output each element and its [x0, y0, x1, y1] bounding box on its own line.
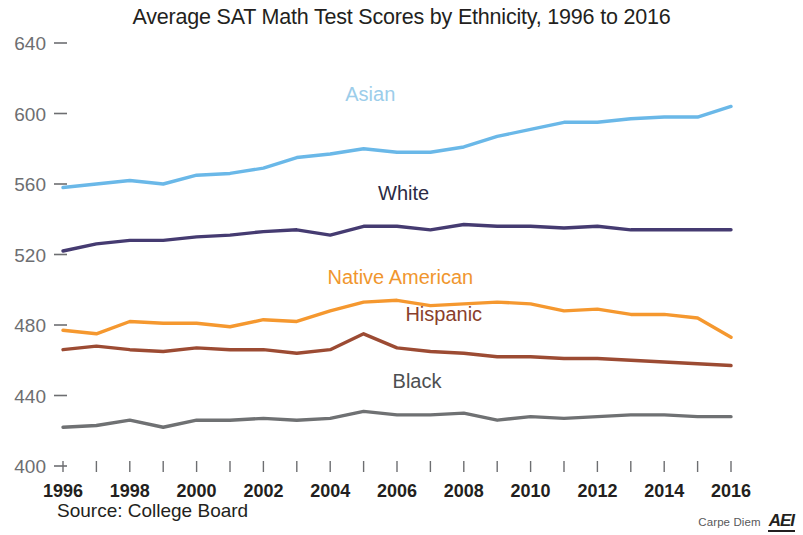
line-chart-plot: 400440480520560600640 199619982000200220… — [0, 0, 803, 535]
x-axis: 1996199820002002200420062008201020122014… — [43, 461, 751, 501]
series-label-asian: Asian — [345, 83, 395, 105]
series-line-black — [63, 411, 731, 427]
series-label-hispanic: Hispanic — [405, 303, 482, 325]
credit-block: Carpe Diem AEI — [698, 512, 795, 532]
series-line-white — [63, 225, 731, 251]
x-axis-tick-label: 2002 — [243, 481, 283, 501]
series-label-white: White — [378, 182, 429, 204]
x-axis-tick-label: 1998 — [110, 481, 150, 501]
series-label-native-american: Native American — [328, 266, 474, 288]
series-label-black: Black — [393, 370, 443, 392]
x-axis-tick-label: 2000 — [177, 481, 217, 501]
y-axis-tick-label: 560 — [14, 174, 46, 195]
y-axis-tick-label: 600 — [14, 104, 46, 125]
x-axis-tick-label: 2016 — [711, 481, 751, 501]
y-axis-tick-label: 440 — [14, 386, 46, 407]
y-axis-tick-label: 480 — [14, 315, 46, 336]
chart-container: Average SAT Math Test Scores by Ethnicit… — [0, 0, 803, 535]
x-axis-tick-label: 2012 — [577, 481, 617, 501]
carpe-diem-credit: Carpe Diem — [698, 516, 760, 528]
y-axis-tick-label: 640 — [14, 33, 46, 54]
series-labels: AsianWhiteNative AmericanHispanicBlack — [328, 83, 483, 392]
source-note: Source: College Board — [57, 500, 248, 522]
aei-logo: AEI — [768, 512, 795, 532]
x-axis-tick-label: 2008 — [444, 481, 484, 501]
x-axis-tick-label: 2006 — [377, 481, 417, 501]
series-line-asian — [63, 106, 731, 187]
series-line-native-american — [63, 300, 731, 337]
y-axis-tick-label: 520 — [14, 245, 46, 266]
y-axis: 400440480520560600640 — [14, 33, 67, 477]
series-line-hispanic — [63, 334, 731, 366]
x-axis-tick-label: 2010 — [511, 481, 551, 501]
y-axis-tick-label: 400 — [14, 456, 46, 477]
x-axis-tick-label: 2014 — [644, 481, 684, 501]
x-axis-tick-label: 2004 — [310, 481, 350, 501]
x-axis-tick-label: 1996 — [43, 481, 83, 501]
